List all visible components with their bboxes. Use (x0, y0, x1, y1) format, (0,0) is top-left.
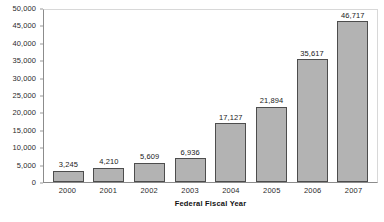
y-tick-label: 40,000 (12, 40, 36, 48)
bar-chart: 50,00045,00040,00035,00030,00025,00020,0… (0, 0, 384, 222)
bar-value-label: 21,894 (260, 96, 284, 105)
bar (175, 158, 206, 182)
y-tick-label: 25,000 (12, 92, 36, 100)
bars-layer: 3,2454,2105,6096,93617,12721,89435,61746… (44, 10, 377, 182)
y-tick-label: 30,000 (12, 75, 36, 83)
bar-value-label: 4,210 (99, 157, 118, 166)
bar-value-label: 17,127 (219, 113, 243, 122)
y-tick-label: 5,000 (17, 162, 36, 170)
bar-value-label: 6,936 (181, 148, 200, 157)
bar-value-label: 5,609 (140, 152, 159, 161)
y-tick-label: 20,000 (12, 109, 36, 117)
x-tick-label: 2004 (215, 184, 246, 200)
bar (256, 107, 287, 182)
plot-area: 3,2454,2105,6096,93617,12721,89435,61746… (43, 9, 378, 183)
bar-value-label: 3,245 (59, 160, 78, 169)
x-tick-label: 2002 (134, 184, 165, 200)
y-tick-label: 50,000 (12, 5, 36, 13)
bar-value-label: 46,717 (341, 11, 365, 20)
bar (134, 163, 165, 182)
bar-group: 21,894 (256, 10, 287, 182)
bar-group: 4,210 (93, 10, 124, 182)
y-tick-label: 45,000 (12, 22, 36, 30)
y-tick-label: 10,000 (12, 144, 36, 152)
bar (93, 168, 124, 182)
x-tick-label: 2005 (256, 184, 287, 200)
x-tick-label: 2000 (52, 184, 83, 200)
bar-group: 17,127 (215, 10, 246, 182)
bar-value-label: 35,617 (300, 49, 324, 58)
bar-group: 6,936 (175, 10, 206, 182)
x-axis: 20002001200220032004200520062007 (43, 184, 378, 200)
x-tick-label: 2001 (93, 184, 124, 200)
y-tick-label: 35,000 (12, 57, 36, 65)
bar-group: 5,609 (134, 10, 165, 182)
bar (297, 59, 328, 182)
y-axis: 50,00045,00040,00035,00030,00025,00020,0… (0, 0, 44, 222)
x-tick-label: 2007 (338, 184, 369, 200)
x-tick-label: 2003 (175, 184, 206, 200)
bar-group: 35,617 (297, 10, 328, 182)
x-tick-label: 2006 (297, 184, 328, 200)
y-tick-label: 0 (32, 179, 36, 187)
bar-group: 46,717 (337, 10, 368, 182)
x-axis-title: Federal Fiscal Year (43, 199, 378, 208)
bar (53, 171, 84, 182)
bar (337, 21, 368, 182)
y-tick-label: 15,000 (12, 127, 36, 135)
bar (215, 123, 246, 182)
bar-group: 3,245 (53, 10, 84, 182)
